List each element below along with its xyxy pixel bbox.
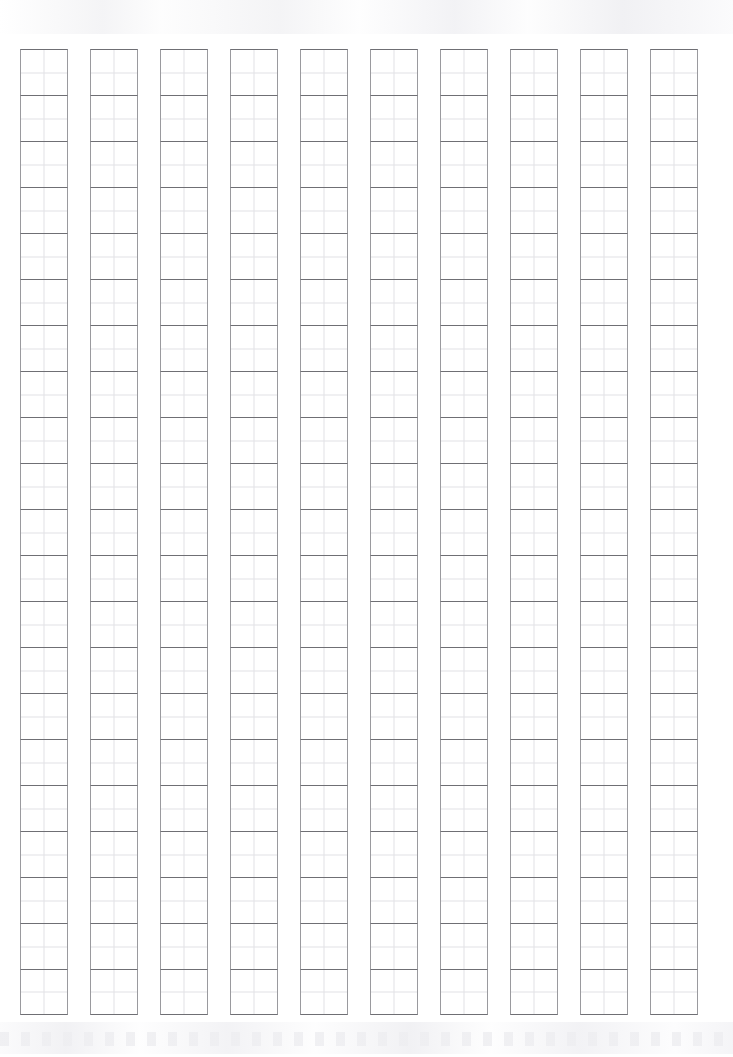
grid-cell[interactable] [20,831,68,877]
grid-cell[interactable] [20,555,68,601]
grid-cell[interactable] [20,187,68,233]
grid-cell[interactable] [440,95,488,141]
grid-cell[interactable] [90,371,138,417]
grid-cell[interactable] [230,509,278,555]
grid-cell[interactable] [160,647,208,693]
grid-cell[interactable] [370,49,418,95]
grid-cell[interactable] [230,739,278,785]
grid-cell[interactable] [370,601,418,647]
grid-cell[interactable] [370,417,418,463]
grid-cell[interactable] [510,785,558,831]
grid-cell[interactable] [370,325,418,371]
grid-cell[interactable] [580,601,628,647]
grid-cell[interactable] [20,969,68,1015]
grid-cell[interactable] [160,785,208,831]
grid-cell[interactable] [230,831,278,877]
grid-cell[interactable] [230,693,278,739]
grid-cell[interactable] [160,463,208,509]
grid-cell[interactable] [650,49,698,95]
grid-cell[interactable] [580,969,628,1015]
grid-cell[interactable] [510,601,558,647]
grid-cell[interactable] [90,831,138,877]
grid-cell[interactable] [650,325,698,371]
grid-cell[interactable] [650,555,698,601]
grid-cell[interactable] [580,187,628,233]
grid-cell[interactable] [160,371,208,417]
grid-cell[interactable] [440,739,488,785]
grid-cell[interactable] [300,831,348,877]
grid-cell[interactable] [650,95,698,141]
grid-cell[interactable] [370,233,418,279]
grid-cell[interactable] [370,647,418,693]
grid-cell[interactable] [90,141,138,187]
grid-cell[interactable] [20,647,68,693]
grid-cell[interactable] [370,739,418,785]
grid-cell[interactable] [370,371,418,417]
grid-cell[interactable] [160,923,208,969]
grid-cell[interactable] [650,693,698,739]
grid-cell[interactable] [160,831,208,877]
grid-cell[interactable] [160,49,208,95]
grid-cell[interactable] [160,969,208,1015]
grid-cell[interactable] [160,325,208,371]
grid-cell[interactable] [580,509,628,555]
grid-cell[interactable] [300,325,348,371]
grid-cell[interactable] [300,877,348,923]
grid-cell[interactable] [230,187,278,233]
grid-cell[interactable] [160,141,208,187]
grid-cell[interactable] [370,693,418,739]
grid-cell[interactable] [160,187,208,233]
grid-cell[interactable] [230,877,278,923]
grid-cell[interactable] [300,463,348,509]
grid-cell[interactable] [20,141,68,187]
grid-cell[interactable] [370,923,418,969]
grid-cell[interactable] [160,279,208,325]
grid-cell[interactable] [370,831,418,877]
grid-cell[interactable] [440,877,488,923]
grid-cell[interactable] [300,49,348,95]
grid-cell[interactable] [20,417,68,463]
grid-cell[interactable] [650,509,698,555]
grid-cell[interactable] [160,95,208,141]
grid-cell[interactable] [20,95,68,141]
grid-cell[interactable] [580,831,628,877]
grid-cell[interactable] [440,509,488,555]
grid-cell[interactable] [510,187,558,233]
grid-cell[interactable] [370,141,418,187]
grid-cell[interactable] [650,601,698,647]
grid-cell[interactable] [370,95,418,141]
grid-cell[interactable] [440,831,488,877]
grid-cell[interactable] [650,417,698,463]
grid-cell[interactable] [90,647,138,693]
grid-cell[interactable] [370,555,418,601]
grid-cell[interactable] [510,831,558,877]
grid-cell[interactable] [160,601,208,647]
grid-cell[interactable] [230,463,278,509]
grid-cell[interactable] [20,279,68,325]
grid-cell[interactable] [580,693,628,739]
grid-cell[interactable] [90,693,138,739]
grid-cell[interactable] [580,49,628,95]
grid-cell[interactable] [510,923,558,969]
grid-cell[interactable] [510,141,558,187]
grid-cell[interactable] [440,417,488,463]
grid-cell[interactable] [370,969,418,1015]
grid-cell[interactable] [300,555,348,601]
grid-cell[interactable] [90,463,138,509]
grid-cell[interactable] [90,233,138,279]
grid-cell[interactable] [440,923,488,969]
grid-cell[interactable] [650,141,698,187]
grid-cell[interactable] [300,647,348,693]
grid-cell[interactable] [90,95,138,141]
grid-cell[interactable] [580,555,628,601]
grid-cell[interactable] [300,233,348,279]
grid-cell[interactable] [510,325,558,371]
grid-cell[interactable] [90,279,138,325]
grid-cell[interactable] [440,233,488,279]
grid-cell[interactable] [650,463,698,509]
grid-cell[interactable] [300,785,348,831]
grid-cell[interactable] [580,371,628,417]
grid-cell[interactable] [230,279,278,325]
grid-cell[interactable] [370,187,418,233]
grid-cell[interactable] [90,923,138,969]
